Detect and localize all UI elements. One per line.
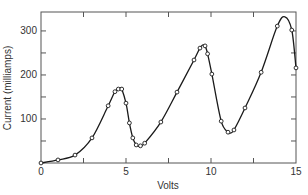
data-point-marker	[219, 119, 223, 123]
data-point-marker	[120, 87, 124, 91]
y-tick-label: 200	[20, 69, 37, 80]
axis-ticks	[41, 12, 296, 163]
data-point-marker	[294, 66, 298, 70]
data-point-marker	[113, 90, 117, 94]
y-axis-title: Current (milliamps)	[2, 46, 13, 130]
chart: 051015 100200300 Volts Current (milliamp…	[0, 0, 308, 195]
data-point-marker	[290, 28, 294, 32]
data-point-marker	[226, 130, 230, 134]
data-point-marker	[159, 120, 163, 124]
data-point-marker	[139, 144, 143, 148]
data-point-marker	[134, 143, 138, 147]
data-point-marker	[192, 58, 196, 62]
data-point-marker	[90, 136, 94, 140]
data-curve	[41, 17, 296, 163]
x-tick-label: 15	[290, 166, 302, 177]
x-tick-label: 10	[205, 166, 217, 177]
data-point-marker	[106, 104, 110, 108]
data-markers	[39, 24, 298, 165]
plot-frame	[41, 12, 296, 163]
x-axis-title: Volts	[157, 180, 179, 191]
data-point-marker	[275, 24, 279, 28]
data-point-marker	[243, 106, 247, 110]
data-point-marker	[131, 136, 135, 140]
data-point-marker	[259, 70, 263, 74]
data-point-marker	[175, 90, 179, 94]
y-tick-labels: 100200300	[20, 25, 37, 124]
x-tick-labels: 051015	[38, 166, 302, 177]
data-point-marker	[198, 46, 202, 50]
data-point-marker	[73, 153, 77, 157]
y-tick-label: 300	[20, 25, 37, 36]
x-tick-label: 5	[123, 166, 129, 177]
x-tick-label: 0	[38, 166, 44, 177]
y-tick-label: 100	[20, 113, 37, 124]
data-point-marker	[39, 161, 43, 165]
data-point-marker	[56, 158, 60, 162]
data-point-marker	[143, 141, 147, 145]
data-point-marker	[206, 52, 210, 56]
data-point-marker	[203, 44, 207, 48]
data-point-marker	[232, 128, 236, 132]
data-point-marker	[210, 72, 214, 76]
data-point-marker	[124, 101, 128, 105]
data-point-marker	[127, 121, 131, 125]
